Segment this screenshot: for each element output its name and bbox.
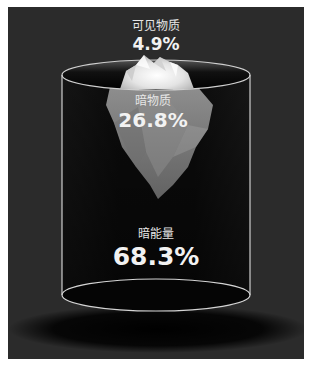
visible-matter-value: 4.9% (8, 33, 304, 55)
visible-matter-name: 可见物质 (8, 19, 304, 33)
dark-energy-name: 暗能量 (8, 227, 304, 241)
floor-shadow (8, 305, 304, 353)
diagram-panel: 可见物质 4.9% 暗物质 26.8% 暗能量 68.3% (8, 7, 304, 359)
cylinder-bottom (62, 279, 250, 311)
dark-energy-value: 68.3% (8, 241, 304, 273)
dark-matter-label: 暗物质 26.8% (8, 94, 301, 132)
dark-matter-value: 26.8% (8, 108, 301, 132)
dark-energy-label: 暗能量 68.3% (8, 227, 304, 273)
visible-matter-label: 可见物质 4.9% (8, 19, 304, 55)
cylinder-iceberg-graphic (8, 7, 304, 359)
dark-matter-name: 暗物质 (8, 94, 301, 108)
